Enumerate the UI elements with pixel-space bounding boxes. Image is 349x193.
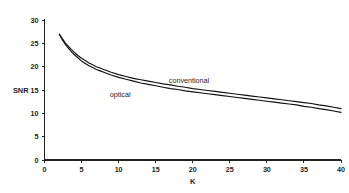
figure-container: 051015202530 0510152025303540 convention…	[0, 0, 349, 193]
series-lines	[59, 34, 341, 112]
x-tick-label: 15	[152, 165, 160, 174]
y-tick-label: 20	[31, 62, 39, 71]
annotation-optical: optical	[110, 90, 131, 99]
y-axis-title: SNR	[13, 86, 29, 95]
x-tick-label: 25	[226, 165, 234, 174]
y-tick-label: 25	[31, 39, 39, 48]
y-tick-label: 10	[31, 109, 39, 118]
axes	[45, 19, 342, 160]
x-tick-label: 40	[337, 165, 345, 174]
y-tick-label: 5	[35, 132, 39, 141]
y-tick-label: 0	[35, 156, 39, 165]
x-axis-title: K	[190, 177, 196, 186]
x-tick-label: 20	[189, 165, 197, 174]
y-tick-label: 30	[31, 16, 39, 25]
x-tick-label: 0	[43, 165, 47, 174]
snr-vs-k-chart: 051015202530 0510152025303540 convention…	[0, 0, 349, 193]
y-axis-ticks: 051015202530	[31, 16, 45, 165]
y-tick-label: 15	[31, 86, 39, 95]
x-tick-label: 10	[115, 165, 123, 174]
series-line-optical	[59, 34, 341, 112]
x-tick-label: 30	[263, 165, 271, 174]
x-tick-label: 35	[300, 165, 308, 174]
annotation-conventional: conventional	[169, 76, 210, 85]
x-tick-label: 5	[80, 165, 84, 174]
x-axis-ticks: 0510152025303540	[43, 160, 346, 174]
